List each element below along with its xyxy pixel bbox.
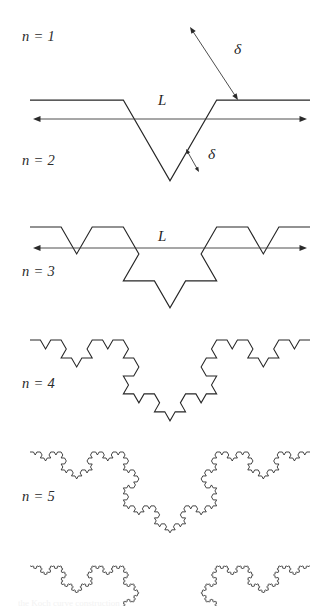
bottom-caption-sliver: the Koch curve construction xyxy=(18,598,332,606)
